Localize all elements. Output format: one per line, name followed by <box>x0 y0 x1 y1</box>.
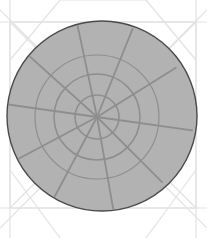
circle-web-diagram <box>0 0 207 238</box>
figure-canvas <box>0 0 207 238</box>
